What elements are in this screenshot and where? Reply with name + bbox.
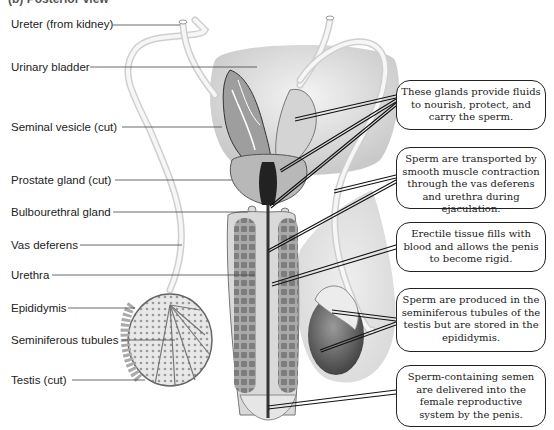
- label-urinary-bladder: Urinary bladder: [11, 60, 90, 74]
- callout-glands: These glands provide fluids to nourish, …: [396, 80, 546, 130]
- label-vas-deferens: Vas deferens: [11, 238, 78, 252]
- prostatic-urethra: [259, 162, 277, 205]
- callout-erectile: Erectile tissue fills with blood and all…: [396, 222, 546, 272]
- reproductive-anatomy-diagram: (b) Posterior view: [0, 0, 554, 430]
- label-bulbourethral-gland: Bulbourethral gland: [11, 205, 111, 219]
- left-erectile-tissue: [234, 218, 256, 393]
- label-urethra: Urethra: [11, 268, 49, 282]
- label-prostate-gland: Prostate gland (cut): [11, 173, 111, 187]
- label-seminal-vesicle: Seminal vesicle (cut): [11, 120, 117, 134]
- label-epididymis: Epididymis: [11, 301, 67, 315]
- callout-transport: Sperm are transported by smooth muscle c…: [396, 147, 546, 209]
- label-testis: Testis (cut): [11, 373, 67, 387]
- callout-delivery: Sperm-containing semen are delivered int…: [396, 365, 546, 427]
- label-seminiferous-tubules: Seminiferous tubules: [11, 333, 118, 347]
- callout-production: Sperm are produced in the seminiferous t…: [396, 288, 546, 352]
- label-ureter: Ureter (from kidney): [11, 17, 113, 31]
- right-erectile-tissue: [278, 218, 298, 393]
